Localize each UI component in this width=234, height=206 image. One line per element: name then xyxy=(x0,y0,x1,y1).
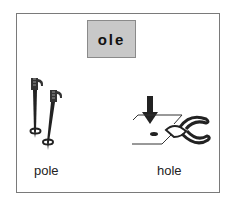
item-label-pole: pole xyxy=(34,163,59,178)
word-family-box: ole xyxy=(87,20,136,58)
ski-poles-icon xyxy=(26,76,70,156)
item-label-hole: hole xyxy=(157,163,182,178)
hole-punch-icon xyxy=(130,94,216,160)
word-family-label: ole xyxy=(98,31,126,48)
